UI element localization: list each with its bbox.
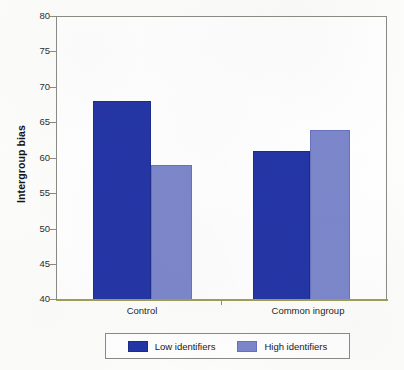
bar-control-high-identifiers xyxy=(151,165,192,300)
bar-common-ingroup-high-identifiers xyxy=(310,130,350,300)
bar-chart-figure: 80 75 70 65 60 55 50 45 40 Intergroup bi… xyxy=(0,0,404,370)
x-axis-baseline xyxy=(56,299,388,301)
legend-entry-high-identifiers: High identifiers xyxy=(237,341,327,352)
chart-legend: Low identifiers High identifiers xyxy=(105,333,350,359)
high-identifiers-swatch-icon xyxy=(237,341,257,352)
bar-common-ingroup-low-identifiers xyxy=(253,151,310,300)
bar-control-low-identifiers xyxy=(93,101,151,300)
legend-entry-low-identifiers: Low identifiers xyxy=(128,341,216,352)
bars-layer xyxy=(0,0,404,370)
legend-label-low-identifiers: Low identifiers xyxy=(155,341,216,352)
legend-label-high-identifiers: High identifiers xyxy=(264,341,327,352)
low-identifiers-swatch-icon xyxy=(128,341,148,352)
